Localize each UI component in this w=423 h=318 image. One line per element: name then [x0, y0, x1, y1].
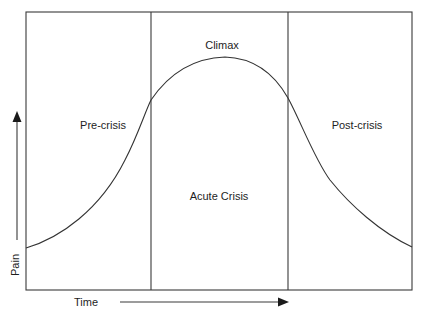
pain-curve	[26, 57, 412, 248]
crisis-diagram: Pre-crisis Climax Acute Crisis Post-cris…	[0, 0, 423, 318]
y-axis-label: Pain	[9, 254, 21, 276]
pain-axis-arrow	[13, 111, 22, 240]
arrow-right-icon	[278, 298, 289, 307]
diagram-frame	[26, 12, 412, 290]
arrow-up-icon	[13, 111, 22, 122]
label-pre-crisis: Pre-crisis	[80, 119, 126, 131]
x-axis-label: Time	[74, 296, 98, 308]
time-axis-arrow	[120, 298, 289, 307]
label-climax: Climax	[205, 39, 239, 51]
label-post-crisis: Post-crisis	[332, 119, 383, 131]
label-acute-crisis: Acute Crisis	[190, 190, 249, 202]
